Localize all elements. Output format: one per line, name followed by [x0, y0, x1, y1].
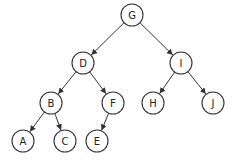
edge-i-j — [188, 72, 206, 94]
node-label: B — [48, 98, 55, 109]
node-label: G — [128, 10, 136, 21]
node-label: H — [149, 98, 157, 109]
node-label: C — [62, 136, 69, 147]
node-label: A — [20, 136, 27, 147]
node-h: H — [142, 92, 164, 114]
edge-g-d — [91, 23, 124, 55]
node-i: I — [170, 52, 192, 74]
edges-layer — [30, 23, 206, 132]
edge-d-f — [90, 72, 107, 94]
node-label: F — [110, 98, 116, 109]
node-e: E — [86, 130, 108, 152]
node-j: J — [202, 92, 224, 114]
edge-b-c — [55, 113, 61, 130]
edge-b-a — [30, 112, 45, 132]
edge-d-b — [58, 72, 76, 94]
node-label: E — [94, 136, 100, 147]
node-b: B — [40, 92, 62, 114]
edge-i-h — [160, 72, 175, 94]
node-d: D — [72, 52, 94, 74]
tree-diagram: GDIBFHJACE — [0, 0, 232, 160]
edge-g-i — [140, 23, 173, 55]
edge-f-e — [102, 113, 109, 130]
node-c: C — [54, 130, 76, 152]
node-a: A — [12, 130, 34, 152]
node-label: I — [180, 58, 183, 69]
node-label: D — [79, 58, 87, 69]
node-f: F — [102, 92, 124, 114]
node-label: J — [211, 98, 215, 109]
nodes-layer: GDIBFHJACE — [12, 4, 224, 152]
node-g: G — [121, 4, 143, 26]
